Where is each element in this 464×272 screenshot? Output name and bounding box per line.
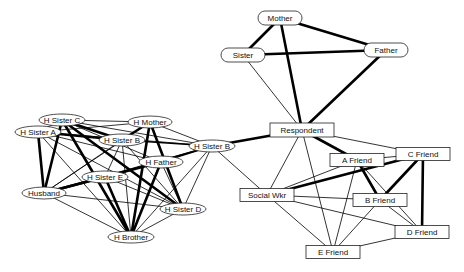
node-hsisterb1[interactable]: H Sister B [99,134,145,146]
edge-father-respondent [302,50,386,130]
node-label: H Sister B [194,142,230,151]
node-label: Husband [28,189,60,198]
edge-hsisterb2-hsisterd [183,146,212,209]
node-hbrother[interactable]: H Brother [108,231,154,243]
node-bfriend[interactable]: B Friend [353,194,407,207]
node-label: H Sister C [44,116,81,125]
edge-mother-respondent [280,18,302,130]
node-label: Mother [268,14,293,23]
node-label: Father [374,46,397,55]
node-label: H Sister D [165,205,202,214]
node-afriend[interactable]: A Friend [330,154,384,167]
edge-socialwkr-hsisterb2 [212,146,267,195]
node-cfriend[interactable]: C Friend [396,148,450,161]
node-label: H Mother [134,118,167,127]
node-label: C Friend [408,150,439,159]
network-diagram: MotherSisterFatherRespondentA FriendC Fr… [0,0,464,272]
node-respondent[interactable]: Respondent [270,123,334,137]
edge-sister-respondent [243,55,302,130]
node-husband[interactable]: Husband [22,187,66,199]
node-label: Respondent [280,126,324,135]
node-label: H Brother [114,233,149,242]
node-hsistere[interactable]: H Sister E [82,171,128,183]
node-mother[interactable]: Mother [258,11,302,25]
node-dfriend[interactable]: D Friend [395,226,449,239]
node-hsisterd[interactable]: H Sister D [160,203,206,215]
edge-cfriend-dfriend [422,154,423,232]
node-label: Social Wkr [248,191,287,200]
network-svg: MotherSisterFatherRespondentA FriendC Fr… [0,0,464,272]
node-hsisterb2[interactable]: H Sister B [189,140,235,152]
node-efriend[interactable]: E Friend [306,246,360,259]
node-sister[interactable]: Sister [221,48,265,62]
edge-hsisterb1-hsisterd [122,140,183,209]
node-hfather[interactable]: H Father [139,156,183,168]
node-label: E Friend [318,248,348,257]
node-label: A Friend [342,156,372,165]
node-father[interactable]: Father [364,43,408,57]
node-label: H Father [145,158,176,167]
node-hsisterc[interactable]: H Sister C [39,114,85,126]
edge-hsistera-hbrother [38,132,131,237]
edge-respondent-socialwkr [267,130,302,195]
node-socialwkr[interactable]: Social Wkr [240,189,294,202]
node-hmother[interactable]: H Mother [128,116,172,128]
edge-socialwkr-efriend [267,195,333,252]
node-label: H Sister E [87,173,123,182]
node-label: D Friend [407,228,438,237]
node-label: B Friend [365,196,395,205]
node-label: H Sister B [104,136,140,145]
edge-respondent-efriend [302,130,333,252]
node-hsistera[interactable]: H Sister A [15,126,61,138]
node-label: Sister [233,51,254,60]
edge-hsistera-husband [38,132,44,193]
node-label: H Sister A [20,128,56,137]
